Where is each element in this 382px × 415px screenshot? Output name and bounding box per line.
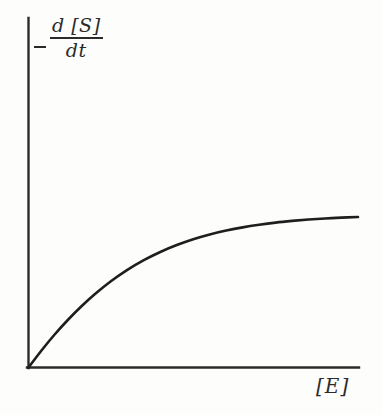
- derivative-fraction: d [S] dt: [50, 16, 103, 60]
- x-axis-label: [E]: [316, 374, 349, 398]
- fraction-numerator: d [S]: [50, 16, 103, 37]
- y-axis-label: d [S] dt: [34, 16, 103, 60]
- saturation-curve: [29, 217, 359, 367]
- minus-sign-icon: [34, 46, 46, 48]
- fraction-denominator: dt: [64, 39, 89, 60]
- plot-canvas: [0, 0, 382, 415]
- enzyme-kinetics-figure: d [S] dt [E]: [0, 0, 382, 415]
